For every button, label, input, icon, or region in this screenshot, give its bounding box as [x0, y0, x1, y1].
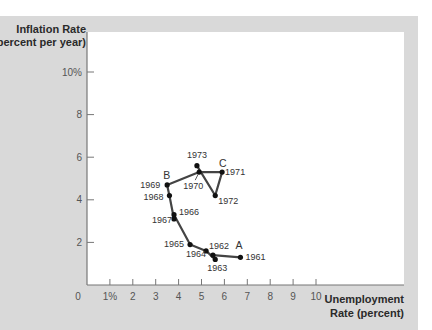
x-tick-label: 4: [176, 291, 182, 302]
year-label-1973: 1973: [187, 150, 207, 160]
data-point-1961: [238, 255, 243, 260]
y-tick-label: 4: [76, 194, 82, 205]
data-point-1963: [213, 257, 218, 262]
year-label-1969: 1969: [140, 180, 160, 190]
x-tick-label: 0: [75, 291, 81, 302]
y-tick-label: 2: [76, 237, 82, 248]
year-label-1972: 1972: [218, 196, 238, 206]
year-label-1971: 1971: [225, 167, 245, 177]
y-tick-label: 10%: [62, 67, 82, 78]
year-label-1966: 1966: [179, 207, 199, 217]
chart-svg: 01%2345678910246810% 1961196219631964196…: [0, 0, 432, 330]
annotation-a: A: [235, 239, 242, 251]
year-label-1963: 1963: [207, 263, 227, 273]
x-tick-label: 9: [290, 291, 296, 302]
x-tick-label: 6: [222, 291, 228, 302]
data-point-1972: [213, 193, 218, 198]
data-point-1965: [187, 242, 192, 247]
point-labels: 1961196219631964196519661967196819691970…: [140, 150, 265, 274]
year-label-1962: 1962: [209, 241, 229, 251]
data-point-1968: [167, 193, 172, 198]
year-label-1968: 1968: [143, 192, 163, 202]
x-tick-label: 8: [267, 291, 273, 302]
year-label-1965: 1965: [164, 239, 184, 249]
x-tick-label: 3: [153, 291, 159, 302]
x-tick-label: 10: [310, 291, 322, 302]
y-tick-label: 6: [76, 152, 82, 163]
data-point-1970: [197, 170, 202, 175]
label-leader-1970: [195, 174, 198, 180]
data-point-1973: [194, 163, 199, 168]
year-label-1967: 1967: [152, 215, 172, 225]
x-tick-label: 2: [130, 291, 136, 302]
x-tick-label: 7: [245, 291, 251, 302]
data-point-1971: [220, 170, 225, 175]
x-tick-label: 1%: [103, 291, 118, 302]
annotation-b: B: [163, 169, 170, 181]
year-label-1961: 1961: [245, 252, 265, 262]
year-label-1964: 1964: [186, 249, 206, 259]
data-point-1969: [165, 182, 170, 187]
y-tick-label: 8: [76, 109, 82, 120]
year-label-1970: 1970: [183, 181, 203, 191]
data-point-1967: [171, 216, 176, 221]
x-tick-label: 5: [199, 291, 205, 302]
annotation-c: C: [219, 157, 227, 169]
